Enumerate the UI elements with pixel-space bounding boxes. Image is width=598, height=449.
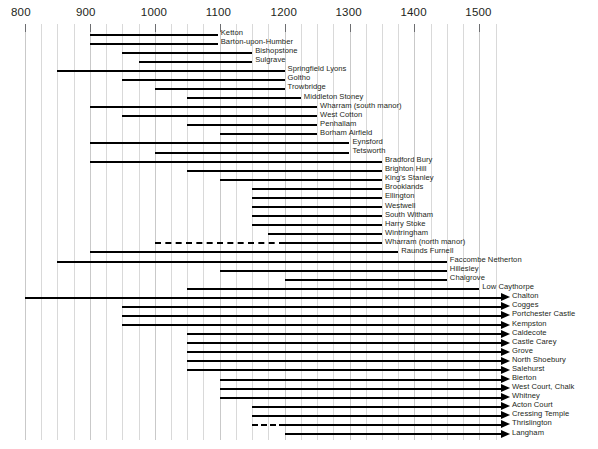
continues-arrow-icon	[501, 411, 510, 419]
timeline-bar	[252, 415, 501, 417]
timeline-bar	[155, 88, 285, 90]
continues-arrow-icon	[501, 357, 510, 365]
gridline-major	[25, 32, 26, 440]
continues-arrow-icon	[501, 311, 510, 319]
timeline-bar	[252, 215, 382, 217]
timeline-bar	[220, 133, 317, 135]
timeline-bar	[90, 106, 317, 108]
site-label: Wharram (north manor)	[385, 238, 465, 246]
site-label: Ellington	[385, 192, 415, 200]
site-label: Springfield Lyons	[288, 65, 347, 73]
timeline-bar	[25, 297, 501, 299]
site-label: Brighton Hill	[385, 165, 427, 173]
timeline-bar	[187, 124, 317, 126]
site-label: Wintringham	[385, 229, 428, 237]
axis-tick-label: 800	[11, 6, 31, 18]
gridline-minor	[74, 24, 75, 440]
site-label: Raunds Furnell	[401, 247, 453, 255]
timeline-bar	[220, 388, 501, 390]
timeline-bar	[252, 197, 382, 199]
site-label: Caldecote	[512, 329, 547, 337]
timeline-bar	[187, 369, 501, 371]
timeline-bar	[90, 251, 398, 253]
site-label: Borham Airfield	[320, 129, 372, 137]
axis-tick-label: 1000	[141, 6, 167, 18]
site-label: Brooklands	[385, 183, 424, 191]
site-label: Middleton Stoney	[304, 93, 363, 101]
axis-tick-label: 1100	[206, 6, 232, 18]
timeline-bar-dashed-segment	[155, 242, 285, 244]
axis-tick	[90, 24, 91, 32]
axis-tick	[155, 24, 156, 32]
axis-tick-label: 1500	[465, 6, 491, 18]
timeline-bar	[220, 179, 382, 181]
timeline-bar	[285, 242, 382, 244]
timeline-bar	[139, 61, 253, 63]
site-label: Thrislington	[512, 419, 552, 427]
continues-arrow-icon	[501, 302, 510, 310]
site-label: Cressing Temple	[512, 410, 569, 418]
timeline-chart: 800900100011001200130014001500 KettonBar…	[0, 0, 598, 449]
timeline-bar	[252, 224, 382, 226]
axis-tick-label: 1400	[400, 6, 426, 18]
continues-arrow-icon	[501, 384, 510, 392]
site-label: King's Stanley	[385, 174, 434, 182]
timeline-bar	[252, 188, 382, 190]
timeline-bar	[122, 315, 501, 317]
site-label: Cogges	[512, 301, 538, 309]
timeline-bar	[252, 406, 501, 408]
site-label: North Shoebury	[512, 356, 566, 364]
timeline-bar	[268, 233, 382, 235]
site-label: Bishopstone	[255, 47, 297, 55]
timeline-bar	[90, 43, 218, 45]
site-label: Wharram (south manor)	[320, 102, 402, 110]
timeline-bar	[187, 170, 382, 172]
axis-tick	[414, 24, 415, 32]
site-label: West Cotton	[320, 111, 362, 119]
site-label: Bradford Bury	[385, 156, 433, 164]
timeline-bar	[187, 351, 501, 353]
axis-tick	[25, 24, 26, 32]
timeline-bar	[122, 306, 501, 308]
site-label: Eynsford	[353, 138, 383, 146]
timeline-bar	[122, 52, 252, 54]
timeline-bar	[187, 333, 501, 335]
site-label: Harry Stoke	[385, 220, 426, 228]
timeline-bar	[90, 34, 218, 36]
timeline-bar	[57, 261, 446, 263]
timeline-bar-dashed-segment	[252, 424, 284, 426]
axis-tick-label: 1300	[336, 6, 362, 18]
site-label: Faccombe Netherton	[450, 256, 522, 264]
continues-arrow-icon	[501, 402, 510, 410]
site-label: Sulgrave	[255, 56, 285, 64]
axis-tick-label: 1200	[271, 6, 297, 18]
site-label: Penhallam	[320, 120, 356, 128]
gridline-minor	[203, 24, 204, 440]
continues-arrow-icon	[501, 330, 510, 338]
site-label: Bierton	[512, 374, 536, 382]
site-label: West Court, Chalk	[512, 383, 574, 391]
continues-arrow-icon	[501, 393, 510, 401]
site-label: Goltho	[288, 74, 311, 82]
site-label: Tetsworth	[353, 147, 386, 155]
site-label: Ketton	[221, 29, 243, 37]
timeline-bar	[90, 161, 382, 163]
gridline-minor	[122, 24, 123, 440]
site-label: Grove	[512, 347, 533, 355]
timeline-bar	[90, 142, 350, 144]
continues-arrow-icon	[501, 348, 510, 356]
continues-arrow-icon	[501, 420, 510, 428]
gridline-major	[155, 32, 156, 440]
site-label: Chalton	[512, 292, 539, 300]
gridline-major	[90, 32, 91, 440]
continues-arrow-icon	[501, 375, 510, 383]
site-label: Castle Carey	[512, 338, 557, 346]
axis-tick	[479, 24, 480, 32]
site-label: Portchester Castle	[512, 310, 575, 318]
timeline-bar	[155, 152, 350, 154]
timeline-bar	[122, 324, 501, 326]
timeline-bar	[187, 360, 501, 362]
timeline-bar	[220, 397, 501, 399]
continues-arrow-icon	[501, 339, 510, 347]
axis-tick	[350, 24, 351, 32]
